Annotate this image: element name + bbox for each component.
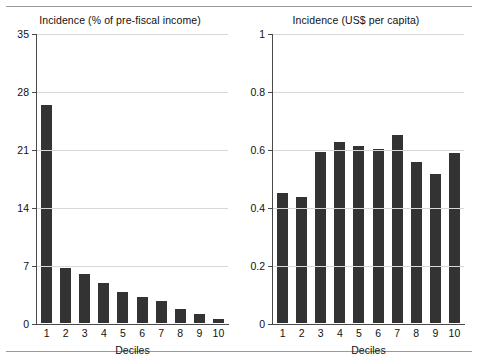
chart-figure: Incidence (% of pre-fiscal income) Decil… (0, 0, 478, 359)
y-tick-right (268, 324, 272, 325)
plot-area-right: Deciles 00.20.40.60.8112345678910 (272, 34, 464, 324)
y-tick-label-right: 0.6 (250, 145, 265, 156)
x-tick-label-right: 7 (394, 327, 400, 339)
bar-series-left (37, 33, 228, 323)
x-tick-label-right: 5 (356, 327, 362, 339)
bar (194, 314, 205, 323)
y-tick-label-right: 0 (259, 319, 265, 330)
gridline-right (273, 34, 464, 35)
x-axis-line-left (36, 324, 229, 325)
y-tick-left (32, 92, 36, 93)
bar (277, 193, 288, 324)
gridline-left (37, 150, 228, 151)
y-tick-label-left: 0 (23, 319, 29, 330)
gridline-left (37, 266, 228, 267)
y-tick-right (268, 266, 272, 267)
bar (296, 197, 307, 323)
bar (98, 283, 109, 323)
plot-area-left: Deciles 071421283512345678910 (36, 34, 228, 324)
bar (175, 309, 186, 323)
bar (315, 152, 326, 323)
y-tick-right (268, 150, 272, 151)
x-tick-label-right: 6 (375, 327, 381, 339)
x-tick-label-right: 8 (413, 327, 419, 339)
bar (353, 146, 364, 323)
bar (60, 268, 71, 323)
gridline-left (37, 208, 228, 209)
x-tick-label-left: 6 (139, 327, 145, 339)
y-tick-label-left: 35 (17, 29, 29, 40)
bar (137, 297, 148, 323)
x-tick-label-left: 5 (120, 327, 126, 339)
x-tick-label-left: 2 (63, 327, 69, 339)
y-tick-label-right: 0.4 (250, 203, 265, 214)
bar (373, 149, 384, 323)
bar (41, 105, 52, 323)
y-tick-right (268, 92, 272, 93)
x-tick-label-left: 8 (177, 327, 183, 339)
gridline-right (273, 92, 464, 93)
bar (79, 274, 90, 323)
x-tick-label-right: 9 (432, 327, 438, 339)
x-tick-label-right: 3 (318, 327, 324, 339)
chart-title-left: Incidence (% of pre-fiscal income) (4, 14, 236, 26)
x-axis-title-left: Deciles (36, 344, 229, 356)
x-tick-label-left: 1 (44, 327, 50, 339)
x-tick-label-left: 9 (196, 327, 202, 339)
y-tick-left (32, 324, 36, 325)
x-tick-label-left: 3 (82, 327, 88, 339)
bar (392, 135, 403, 324)
chart-title-right: Incidence (US$ per capita) (240, 14, 472, 26)
y-tick-label-left: 7 (23, 261, 29, 272)
bar (213, 319, 224, 323)
x-axis-title-right: Deciles (272, 344, 465, 356)
gridline-right (273, 150, 464, 151)
y-tick-label-left: 14 (17, 203, 29, 214)
x-tick-label-left: 4 (101, 327, 107, 339)
bar (334, 142, 345, 323)
gridline-right (273, 208, 464, 209)
y-tick-left (32, 208, 36, 209)
x-tick-label-right: 2 (299, 327, 305, 339)
y-tick-label-left: 28 (17, 87, 29, 98)
x-tick-label-left: 10 (213, 327, 225, 339)
bar (156, 301, 167, 323)
y-tick-label-right: 0.2 (250, 261, 265, 272)
gridline-right (273, 266, 464, 267)
y-tick-label-right: 0.8 (250, 87, 265, 98)
bar (411, 162, 422, 323)
bar (449, 153, 460, 323)
chart-panel-left: Incidence (% of pre-fiscal income) Decil… (4, 14, 236, 344)
y-tick-left (32, 150, 36, 151)
y-tick-left (32, 266, 36, 267)
y-tick-label-right: 1 (259, 29, 265, 40)
bar-series-right (273, 33, 464, 323)
x-tick-label-right: 4 (337, 327, 343, 339)
top-divider-rule (6, 6, 472, 7)
x-tick-label-right: 1 (280, 327, 286, 339)
gridline-left (37, 92, 228, 93)
chart-panel-right: Incidence (US$ per capita) Deciles 00.20… (240, 14, 472, 344)
y-tick-label-left: 21 (17, 145, 29, 156)
x-tick-label-left: 7 (158, 327, 164, 339)
bar (117, 292, 128, 323)
gridline-left (37, 34, 228, 35)
bar (430, 174, 441, 323)
y-tick-left (32, 34, 36, 35)
y-tick-right (268, 34, 272, 35)
x-axis-line-right (272, 324, 465, 325)
y-tick-right (268, 208, 272, 209)
x-tick-label-right: 10 (449, 327, 461, 339)
